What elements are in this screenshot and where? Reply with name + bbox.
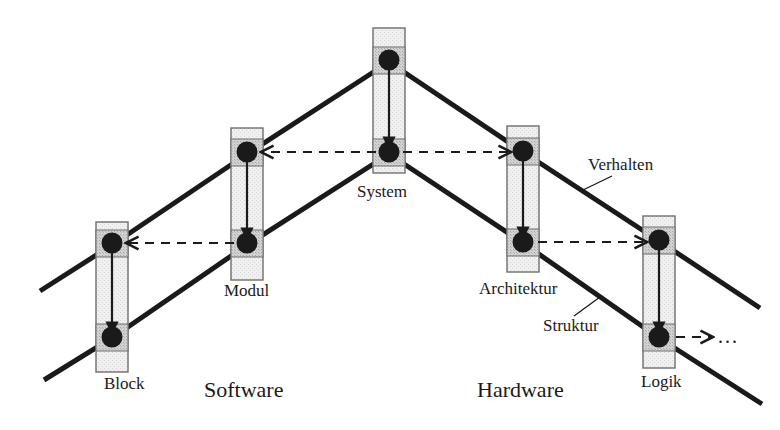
node-label-architektur: Architektur — [479, 279, 557, 299]
node-logik-bottom-circle[interactable] — [649, 327, 670, 348]
continuation-ellipsis: ... — [718, 325, 739, 348]
node-label-logik: Logik — [641, 372, 682, 392]
node-modul-bottom-circle[interactable] — [237, 233, 258, 254]
annotation-label-struktur: Struktur — [543, 316, 599, 336]
node-label-block: Block — [104, 374, 145, 394]
domain-label-hardware: Hardware — [477, 377, 564, 403]
node-modul[interactable] — [231, 128, 263, 280]
diagram-svg — [0, 0, 780, 430]
node-label-system: System — [357, 182, 407, 202]
annotation-label-verhalten: Verhalten — [588, 155, 653, 175]
leader-line-verhalten — [583, 176, 612, 190]
node-block[interactable] — [96, 222, 128, 372]
node-system-bottom-circle[interactable] — [379, 142, 400, 163]
node-block-bottom-circle[interactable] — [102, 327, 123, 348]
diagram-canvas: Block Modul System Architektur Logik Ver… — [0, 0, 780, 430]
leader-line-struktur — [574, 297, 600, 316]
node-architektur[interactable] — [507, 126, 539, 272]
node-logik[interactable] — [643, 216, 675, 368]
node-system-top-circle[interactable] — [379, 50, 400, 71]
node-system[interactable] — [373, 28, 405, 173]
node-architektur-bottom-circle[interactable] — [513, 232, 534, 253]
node-architektur-top-circle[interactable] — [513, 141, 534, 162]
node-label-modul: Modul — [224, 281, 269, 301]
domain-label-software: Software — [204, 377, 283, 403]
node-modul-top-circle[interactable] — [237, 142, 258, 163]
dashed-mapping-arrows — [127, 152, 712, 337]
node-logik-top-circle[interactable] — [649, 230, 670, 251]
node-block-top-circle[interactable] — [102, 233, 123, 254]
